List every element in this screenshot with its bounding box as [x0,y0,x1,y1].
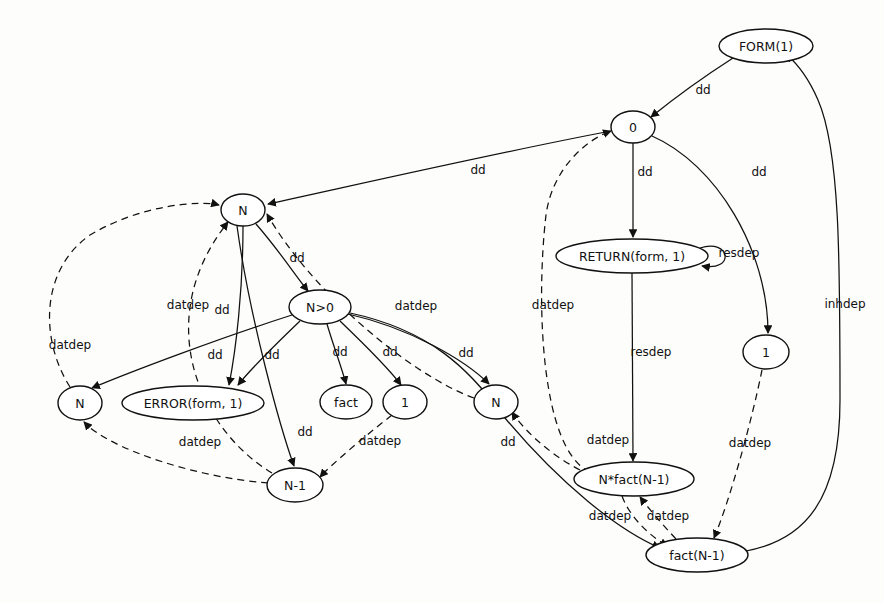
graph-node-n_left[interactable]: N [58,386,102,420]
node-shape [122,386,264,420]
edge-Ngt0-to-factN1 [350,313,660,548]
edge-1mid-to-Nminus1-datdep [320,415,392,477]
edge-label-e7: dd [289,251,304,265]
graph-node-nminus1[interactable]: N-1 [267,468,323,502]
dependency-graph: FORM(1)0NRETURN(form, 1)N>01NERROR(form,… [0,0,884,603]
edge-Nfact-to-factN1-datdep [622,496,668,546]
edge-label-e26: inhdep [824,297,865,311]
graph-node-one_mid[interactable]: 1 [383,385,427,419]
edge-label-e16: datdep [395,299,437,313]
edges-solid [92,54,840,551]
graph-node-fact[interactable]: fact [320,385,372,419]
edge-factN1-to-Nfact-datdep [640,497,676,539]
node-shape [58,386,102,420]
edge-label-e8: dd [214,303,229,317]
graph-node-factn1[interactable]: fact(N-1) [646,538,748,572]
edge-Nfact-to-0-datdep [542,131,611,472]
node-shape [646,538,748,572]
node-shape [267,468,323,502]
node-shape [574,462,694,496]
edge-Ngt0-to-fact [327,324,346,384]
graph-node-form1[interactable]: FORM(1) [719,29,813,63]
edge-form1-to-0 [651,58,733,117]
edge-label-e9: dd [297,425,312,439]
graph-node-n_top[interactable]: N [221,194,265,226]
edge-label-e22: datdep [587,433,629,447]
node-shape [320,385,372,419]
edge-label-e15: dd [500,435,515,449]
graph-node-return1[interactable]: RETURN(form, 1) [556,239,708,273]
edge-label-e14: dd [458,346,473,360]
edge-Nfact-to-Nmid-datdep [512,412,580,470]
node-shape [611,111,655,143]
edge-label-e13: dd [382,345,397,359]
edge-label-e3: dd [637,165,652,179]
edge-label-e2: dd [470,163,485,177]
edge-label-e11: dd [264,348,279,362]
edge-label-e18: datdep [167,298,209,312]
edge-label-e4: dd [751,165,766,179]
edge-Nleft-to-N-datdep [50,203,219,387]
edge-label-e10: dd [207,348,222,362]
edge-Ngt0-to-1mid [340,321,401,385]
edge-N-to-Ngt0 [256,224,308,291]
edge-RETURN-to-Nfact [632,273,633,461]
graph-node-ngt0[interactable]: N>0 [289,290,351,324]
edge-Nminus1-to-Nleft-datdep [84,422,268,483]
edge-Ngt0-to-ERROR [238,321,300,385]
node-shape [289,290,351,324]
edge-label-e6: resdep [631,345,672,359]
edge-factN1-to-form1-inhdep [746,54,840,551]
edge-Nminus1-to-N-datdep [189,222,272,473]
edge-label-e19: datdep [179,435,221,449]
edge-label-e25: datdep [729,436,771,450]
node-shape [743,335,789,369]
edge-label-e24: datdep [589,509,631,523]
edge-0-to-1right [652,136,768,333]
node-shape [383,385,427,419]
node-shape [719,29,813,63]
graph-node-zero[interactable]: 0 [611,111,655,143]
nodes-layer: FORM(1)0NRETURN(form, 1)N>01NERROR(form,… [58,29,813,572]
node-shape [221,194,265,226]
graph-node-n_mid[interactable]: N [474,385,518,419]
edge-label-e1: dd [695,83,710,97]
edge-label-e17: datdep [49,338,91,352]
node-shape [474,385,518,419]
edge-label-e20: datdep [359,434,401,448]
edge-labels-layer: ddddddddresdepresdepddddddddddddddddddda… [49,83,866,523]
graph-node-error1[interactable]: ERROR(form, 1) [122,386,264,420]
graph-node-one_right[interactable]: 1 [743,335,789,369]
edge-1right-to-factN1-datdep [714,370,762,538]
graph-node-nfact[interactable]: N*fact(N-1) [574,462,694,496]
diagram-canvas: FORM(1)0NRETURN(form, 1)N>01NERROR(form,… [0,0,884,603]
edge-label-e21: datdep [532,298,574,312]
node-shape [556,239,708,273]
edge-0-to-N [268,131,611,204]
edge-label-e23: datdep [647,509,689,523]
